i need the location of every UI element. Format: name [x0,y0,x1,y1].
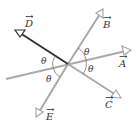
label-e: → E [45,104,55,122]
angle-arc-ac [83,60,86,74]
label-b: → B [102,12,112,30]
svg-text:E: E [45,111,54,122]
arrowhead-b-icon [96,9,103,18]
svg-text:A: A [118,58,126,69]
theta-label: θ [88,64,94,74]
label-d: → D [24,11,34,29]
arrowhead-e-icon [36,108,43,117]
vector-diagram: θ θ θ θ → D → B → A → C → E [0,0,137,126]
theta-label: θ [41,56,47,66]
theta-label: θ [46,74,52,84]
theta-label: θ [84,47,90,57]
svg-text:C: C [105,99,113,110]
svg-text:D: D [24,18,33,29]
label-c: → C [105,92,114,110]
label-a: → A [118,51,128,69]
svg-text:B: B [102,19,110,30]
angle-arc-da [53,56,55,68]
angle-arc-ae [53,68,60,77]
